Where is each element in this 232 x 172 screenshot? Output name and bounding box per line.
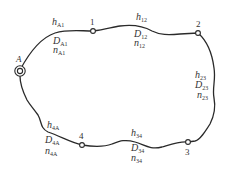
node-2-marker [196,31,201,36]
segment-4A-h: h4A [47,120,59,131]
segment-A1-n: nA1 [53,45,65,56]
node-label-3: 3 [185,148,190,157]
node-3-marker [186,140,191,145]
segment-4A-n: n4A [45,146,57,157]
segment-A1-h: hA1 [52,17,64,28]
node-A-inner [17,68,22,73]
node-label-4: 4 [79,132,84,141]
segment-12-h: h12 [136,12,147,23]
node-4-marker [80,143,85,148]
node-label-A: A [16,55,22,64]
segment-34-n: n34 [131,153,142,164]
node-1-marker [91,29,96,34]
segment-23-n: n23 [197,90,208,101]
segment-12-n: n12 [134,38,145,49]
node-label-2: 2 [196,20,201,29]
node-label-1: 1 [90,18,95,27]
segment-34-h: h34 [131,128,142,139]
